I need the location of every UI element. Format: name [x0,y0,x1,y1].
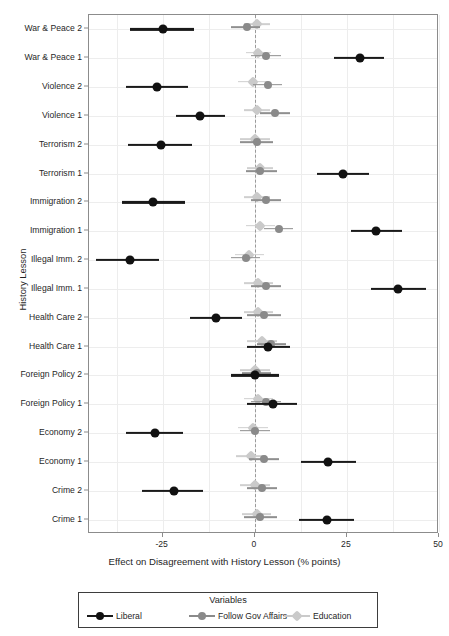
point-estimate-marker [355,54,364,63]
y-tick-mark [84,489,88,490]
point-estimate-marker [262,196,270,204]
point-estimate-marker [195,111,204,120]
y-tick-mark [84,518,88,519]
point-estimate-marker [158,25,167,34]
y-tick-label: Crime 1 [0,514,82,524]
y-tick-mark [84,114,88,115]
legend-label: Liberal [116,611,142,621]
y-tick-mark [84,172,88,173]
point-estimate-marker [255,220,266,231]
y-tick-mark [84,259,88,260]
y-tick-label: Illegal Imm. 2 [0,254,82,264]
gridline-vertical-minor [117,15,118,532]
point-estimate-marker [153,83,162,92]
point-estimate-marker [125,256,134,265]
point-estimate-marker [169,486,178,495]
point-estimate-marker [256,167,264,175]
point-estimate-marker [264,81,272,89]
y-tick-label: War & Peace 2 [0,23,82,33]
y-tick-mark [84,57,88,58]
point-estimate-marker [372,227,381,236]
y-tick-mark [84,460,88,461]
gridline-horizontal [89,116,437,117]
y-tick-label: Economy 1 [0,456,82,466]
point-estimate-marker [324,457,333,466]
y-tick-label: Illegal Imm. 1 [0,283,82,293]
y-tick-mark [84,201,88,202]
point-estimate-marker [262,52,270,60]
point-estimate-marker [258,484,266,492]
point-estimate-marker [322,515,331,524]
y-tick-label: Immigration 1 [0,225,82,235]
y-tick-label: Foreign Policy 1 [0,398,82,408]
legend: Variables LiberalFollow Gov AffairsEduca… [78,592,378,628]
y-tick-mark [84,432,88,433]
legend-label: Education [313,611,351,621]
y-tick-label: Health Care 2 [0,312,82,322]
point-estimate-marker [260,455,268,463]
point-estimate-marker [256,513,264,521]
point-estimate-marker [262,282,270,290]
x-tick-label: 0 [251,539,256,549]
y-tick-label: Health Care 1 [0,341,82,351]
legend-item[interactable]: Education [284,611,351,621]
x-tick-label: -25 [155,539,167,549]
point-estimate-marker [394,284,403,293]
x-tick-label: 50 [433,539,443,549]
gridline-vertical [439,15,440,532]
y-tick-label: Immigration 2 [0,196,82,206]
y-tick-label: Terrorism 1 [0,168,82,178]
gridline-vertical [347,15,348,532]
y-tick-mark [84,28,88,29]
y-tick-mark [84,230,88,231]
point-estimate-marker [251,427,259,435]
y-tick-label: Economy 2 [0,427,82,437]
x-tick-label: 25 [341,539,351,549]
legend-marker-icon [284,611,310,621]
point-estimate-marker [275,225,283,233]
legend-label: Follow Gov Affairs [218,611,287,621]
point-estimate-marker [149,198,158,207]
y-tick-label: Foreign Policy 2 [0,369,82,379]
point-estimate-marker [247,76,258,87]
y-tick-mark [84,316,88,317]
legend-item[interactable]: Follow Gov Affairs [189,611,287,621]
gridline-vertical-minor [301,15,302,532]
y-tick-mark [84,287,88,288]
coefficient-plot-figure: History Lesson War & Peace 2War & Peace … [0,0,449,636]
legend-item[interactable]: Liberal [87,611,142,621]
y-tick-label: Violence 2 [0,81,82,91]
gridline-vertical-minor [393,15,394,532]
point-estimate-marker [260,311,268,319]
y-tick-mark [84,403,88,404]
point-estimate-marker [271,109,279,117]
x-tick-mark [162,533,163,537]
point-estimate-marker [251,18,262,29]
point-estimate-marker [250,371,259,380]
point-estimate-marker [243,23,251,31]
point-estimate-marker [251,191,262,202]
legend-title: Variables [79,595,377,605]
plot-area [88,14,438,533]
legend-marker-icon [189,611,215,621]
point-estimate-marker [212,313,221,322]
point-estimate-marker [242,254,250,262]
x-axis-title: Effect on Disagreement with History Less… [0,556,449,567]
legend-marker-icon [87,611,113,621]
point-estimate-marker [251,105,262,116]
point-estimate-marker [263,342,272,351]
y-tick-label: War & Peace 1 [0,52,82,62]
x-tick-mark [254,533,255,537]
y-tick-mark [84,86,88,87]
gridline-vertical [163,15,164,532]
y-tick-label: Terrorism 2 [0,139,82,149]
y-tick-mark [84,345,88,346]
y-tick-label: Crime 2 [0,485,82,495]
point-estimate-marker [339,169,348,178]
point-estimate-marker [269,400,278,409]
point-estimate-marker [253,138,261,146]
gridline-vertical-minor [209,15,210,532]
x-tick-mark [438,533,439,537]
x-tick-mark [346,533,347,537]
y-tick-label: Violence 1 [0,110,82,120]
